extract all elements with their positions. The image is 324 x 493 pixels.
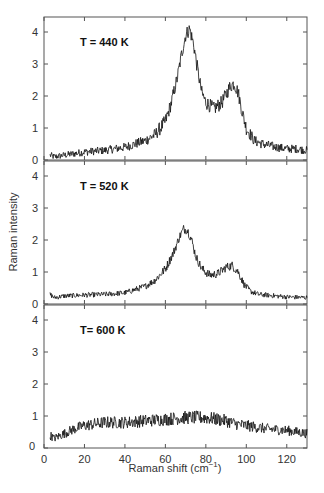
y-tick-label: 1	[32, 122, 38, 134]
x-axis-title-close: )	[218, 462, 222, 474]
y-tick-label: 0	[29, 440, 35, 452]
x-axis-title-main: Raman shift (cm	[129, 462, 209, 474]
spectrum-line	[50, 225, 307, 299]
spectrum-line	[50, 411, 307, 441]
y-tick-label: 4	[32, 314, 38, 326]
y-tick-label: 4	[32, 26, 38, 38]
spectrum-panel-1: 01234T = 440 K	[32, 17, 307, 166]
y-tick-label: 2	[32, 90, 38, 102]
y-tick-label: 0	[32, 298, 38, 310]
y-axis-title: Raman intensity	[7, 192, 19, 271]
y-tick-label: 2	[32, 234, 38, 246]
x-axis-title: Raman shift (cm−1)	[129, 460, 222, 474]
temperature-label: T = 440 K	[80, 36, 129, 48]
x-tick-label: 20	[78, 453, 90, 465]
x-tick-label: 100	[237, 453, 255, 465]
temperature-label: T= 600 K	[80, 324, 126, 336]
y-tick-label: 4	[32, 170, 38, 182]
temperature-label: T = 520 K	[80, 180, 129, 192]
y-tick-label: 2	[32, 378, 38, 390]
y-tick-label: 1	[32, 266, 38, 278]
x-tick-label: 0	[41, 453, 47, 465]
y-tick-label: 3	[32, 202, 38, 214]
spectrum-panel-2: 01234T = 520 K	[32, 161, 307, 310]
x-tick-label: 120	[278, 453, 296, 465]
y-tick-label: 3	[32, 58, 38, 70]
y-tick-label: 0	[32, 154, 38, 166]
spectrum-panel-3: 12340020406080100120T= 600 K	[29, 305, 307, 465]
chart-canvas: 01234T = 440 K01234T = 520 K123400204060…	[0, 0, 324, 493]
y-tick-label: 1	[32, 410, 38, 422]
raman-spectra-figure: 01234T = 440 K01234T = 520 K123400204060…	[0, 0, 324, 493]
y-tick-label: 3	[32, 346, 38, 358]
panels-group: 01234T = 440 K01234T = 520 K123400204060…	[29, 17, 307, 465]
